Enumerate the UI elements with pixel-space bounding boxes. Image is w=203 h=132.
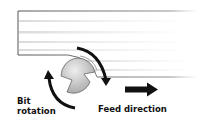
- workpiece-board: [18, 11, 198, 77]
- feed-direction-label: Feed direction: [98, 104, 167, 114]
- bit-rotation-label-line2: rotation: [17, 106, 57, 116]
- bit-rotation-label: Bit rotation: [17, 96, 57, 116]
- router-bit: [61, 56, 97, 93]
- feed-direction-arrow: [125, 83, 158, 97]
- diagram: Bit rotation Feed direction: [0, 0, 203, 132]
- bit-rotation-label-line1: Bit: [17, 96, 57, 106]
